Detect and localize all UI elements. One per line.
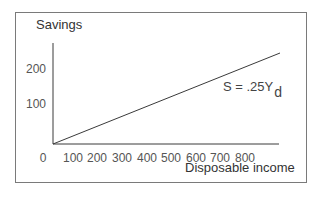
x-tick-100: 100 [63,151,83,165]
y-tick-100: 100 [26,97,46,111]
x-tick-500: 500 [161,151,181,165]
equation-annotation: S = .25Yd [223,79,282,100]
x-tick-400: 400 [137,151,157,165]
y-tick-200: 200 [26,62,46,76]
x-axis-label: Disposable income [185,160,295,175]
x-tick-0: 0 [40,151,47,165]
equation-main: S = .25Y [223,79,273,94]
y-axis-label: Savings [36,17,82,32]
x-tick-300: 300 [112,151,132,165]
x-tick-200: 200 [87,151,107,165]
equation-subscript: d [274,84,282,100]
